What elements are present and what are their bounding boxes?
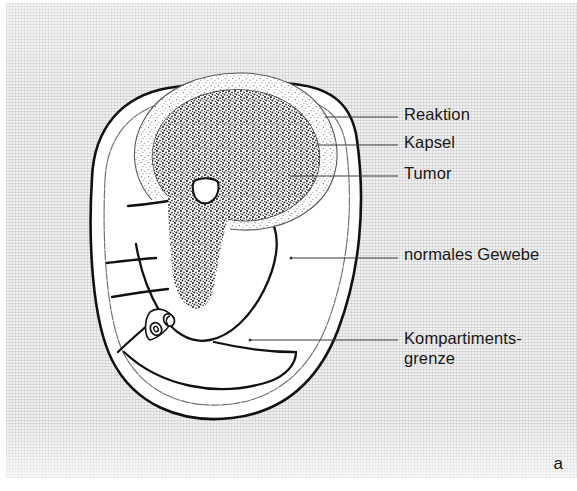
label-kompartimentsgrenze: Kompartiments- grenze bbox=[404, 328, 554, 368]
panel-letter: a bbox=[554, 454, 563, 474]
bone bbox=[193, 178, 219, 203]
label-kompartimentsgrenze-line2: grenze bbox=[404, 349, 455, 367]
figure-page: Reaktion Kapsel Tumor normales Gewebe Ko… bbox=[0, 0, 577, 491]
label-reaktion: Reaktion bbox=[404, 105, 470, 124]
label-tumor: Tumor bbox=[404, 164, 452, 183]
label-kompartimentsgrenze-line1: Kompartiments- bbox=[404, 329, 522, 347]
label-kapsel: Kapsel bbox=[404, 133, 455, 152]
label-normales-gewebe: normales Gewebe bbox=[404, 245, 539, 264]
